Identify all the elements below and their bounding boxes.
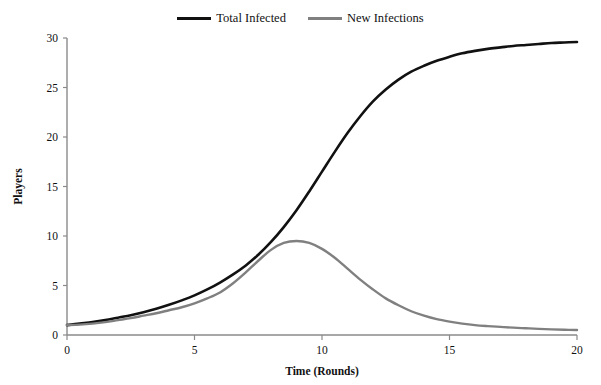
x-tick-label: 20 [571, 344, 583, 356]
y-tick-label: 15 [47, 181, 59, 193]
y-tick-label: 5 [52, 280, 58, 292]
y-axis-ticks: 051015202530 [47, 32, 68, 341]
x-axis-ticks: 05101520 [64, 335, 583, 356]
y-tick-label: 0 [52, 329, 58, 341]
x-tick-label: 0 [64, 344, 70, 356]
chart-figure: Total Infected New Infections 0510152025… [0, 0, 601, 385]
series-line-total-infected [67, 42, 577, 325]
y-tick-label: 10 [47, 230, 59, 242]
y-tick-label: 20 [47, 131, 59, 143]
series-group [67, 42, 577, 330]
x-tick-label: 15 [444, 344, 456, 356]
y-tick-label: 25 [47, 82, 59, 94]
x-tick-label: 10 [316, 344, 328, 356]
plot-area: 051015202530 05101520 Time (Rounds) Play… [0, 0, 601, 385]
x-tick-label: 5 [192, 344, 198, 356]
y-tick-label: 30 [47, 32, 59, 44]
chart-svg: 051015202530 05101520 Time (Rounds) Play… [0, 0, 601, 385]
x-axis-title: Time (Rounds) [285, 365, 359, 378]
series-line-new-infections [67, 241, 577, 330]
y-axis-title: Players [12, 168, 25, 205]
